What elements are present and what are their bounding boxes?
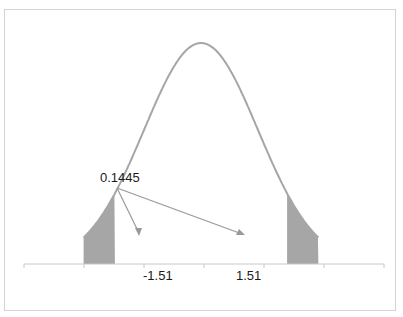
x-axis-ticks [24,264,384,268]
annotation-arrows [117,188,245,236]
shaded-tails [84,193,319,264]
tick-label-pos: 1.51 [236,268,261,283]
normal-curve-chart [0,0,403,317]
annotation-label: 0.1445 [100,170,140,185]
normal-curve [84,43,319,238]
tick-label-neg: -1.51 [143,268,173,283]
